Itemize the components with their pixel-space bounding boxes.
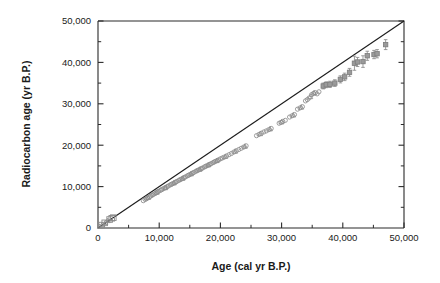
x-tick-label: 40,000 — [328, 232, 357, 243]
chart-figure: 010,00020,00030,00040,00050,000 010,0002… — [0, 0, 440, 283]
data-point — [355, 60, 359, 64]
y-tick-label: 20,000 — [62, 140, 91, 151]
data-point — [333, 81, 337, 85]
data-point — [361, 59, 365, 63]
data-point — [328, 82, 332, 86]
data-point — [365, 54, 369, 58]
y-axis-title: Radiocarbon age (yr B.P.) — [20, 60, 32, 187]
x-tick-label: 20,000 — [206, 232, 235, 243]
x-tick-label: 10,000 — [145, 232, 174, 243]
data-point — [342, 75, 346, 79]
y-tick-label: 30,000 — [62, 98, 91, 109]
y-tick-label: 10,000 — [62, 181, 91, 192]
x-axis-title: Age (cal yr B.P.) — [211, 260, 290, 272]
data-point — [338, 77, 342, 81]
x-tick-label: 0 — [95, 232, 100, 243]
x-tick-label: 30,000 — [267, 232, 296, 243]
radiocarbon-calibration-plot: 010,00020,00030,00040,00050,000 010,0002… — [0, 0, 440, 283]
x-tick-label: 50,000 — [389, 232, 418, 243]
y-tick-label: 50,000 — [62, 15, 91, 26]
data-point — [383, 42, 387, 46]
data-point — [375, 52, 379, 56]
y-tick-label: 40,000 — [62, 57, 91, 68]
y-tick-label: 0 — [86, 222, 91, 233]
data-point — [347, 70, 351, 74]
